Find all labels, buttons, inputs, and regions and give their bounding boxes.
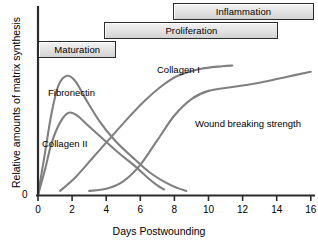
x-axis-tick-label: 4: [98, 205, 114, 215]
x-axis-tick-label: 2: [64, 205, 80, 215]
curve-label-collagen-i: Collagen I: [157, 65, 200, 75]
phase-label-inflammation: Inflammation: [216, 7, 272, 17]
x-axis-tick-label: 8: [166, 205, 182, 215]
curve-label-wound-breaking-strength: Wound breaking strength: [195, 119, 301, 129]
x-axis-tick-label: 12: [235, 205, 251, 215]
phase-label-proliferation: Proliferation: [165, 26, 217, 36]
curve-wound-breaking-strength: [89, 72, 311, 191]
phase-bar-proliferation: Proliferation: [104, 22, 278, 39]
y-axis-title: Relative amounts of matrix synthesis: [11, 17, 22, 188]
curve-label-collagen-iii: Collagen II: [42, 139, 87, 149]
phase-bar-inflammation: Inflammation: [173, 3, 315, 20]
x-axis-tick-label: 6: [132, 205, 148, 215]
y-axis-tick-label-0: 0: [22, 190, 28, 200]
wound-healing-chart: Maturation Proliferation Inflammation Fi…: [0, 0, 318, 242]
x-axis-tick-label: 0: [30, 205, 46, 215]
x-axis-title: Days Postwounding: [0, 226, 318, 237]
x-axis-tick-label: 16: [303, 205, 318, 215]
curve-group: [38, 66, 311, 195]
curve-label-fibronectin: Fibronectin: [48, 88, 95, 98]
x-axis-tick-label: 14: [269, 205, 285, 215]
phase-label-maturation: Maturation: [54, 45, 100, 55]
x-axis-tick-label: 10: [201, 205, 217, 215]
phase-bar-maturation: Maturation: [38, 41, 116, 58]
